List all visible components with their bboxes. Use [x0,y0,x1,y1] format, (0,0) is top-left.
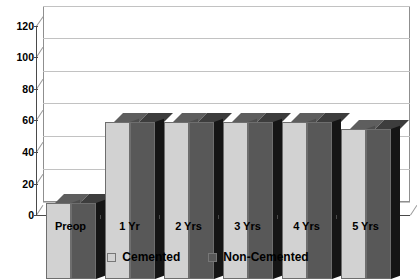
x-label-1yr: 1 Yr [100,220,159,233]
bar-preop-cemented [46,203,71,279]
y-tick-label-120: 120 [4,21,34,31]
depth-line-0 [36,205,43,216]
legend-label-cemented: Cemented [122,250,180,264]
chart-legend: Cemented Non-Cemented [0,250,416,264]
y-tick-mark [34,215,38,216]
x-tick-mark [277,215,278,219]
y-tick-mark [34,57,38,58]
x-label-3yrs: 3 Yrs [218,220,277,233]
bar-preop-non-cemented [71,203,96,279]
bar-face [46,203,71,279]
y-tick-label-0: 0 [4,210,34,220]
y-tick-label-60: 60 [4,115,34,125]
y-tick-label-100: 100 [4,52,34,62]
depth-line-right [410,205,417,216]
y-tick-label-80: 80 [4,84,34,94]
y-axis-line [36,26,37,216]
y-tick-mark [34,89,38,90]
x-label-2yrs: 2 Yrs [159,220,218,233]
y-tick-mark [34,152,38,153]
y-tick-label-20: 20 [4,179,34,189]
legend-label-non-cemented: Non-Cemented [223,250,308,264]
y-tick-mark [34,26,38,27]
gridline-100 [43,38,410,39]
x-tick-mark [159,215,160,219]
y-axis: 120 100 80 60 40 20 0 [0,0,34,279]
bar-face [71,203,96,279]
legend-swatch-icon [208,253,217,262]
bar-side [96,200,105,279]
x-label-4yrs: 4 Yrs [277,220,336,233]
gridline-120 [43,6,410,7]
x-label-preop: Preop [41,220,100,233]
legend-item-cemented: Cemented [107,250,180,264]
x-tick-mark [218,215,219,219]
x-label-5yrs: 5 Yrs [336,220,395,233]
gridline-60 [43,103,410,104]
y-tick-label-40: 40 [4,147,34,157]
x-tick-mark [336,215,337,219]
legend-item-non-cemented: Non-Cemented [208,250,308,264]
y-tick-mark [34,184,38,185]
legend-swatch-icon [107,253,116,262]
y-tick-mark [34,120,38,121]
x-tick-mark [100,215,101,219]
gridline-80 [43,71,410,72]
